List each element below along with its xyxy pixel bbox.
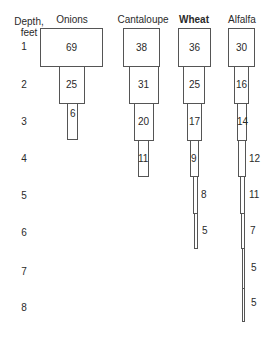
column-title-cantaloupe: Cantaloupe [116,14,170,25]
depth-label-5: 5 [14,190,34,201]
alfalfa-depth-4-box: 12 [238,140,246,177]
alfalfa-depth-3-box: 14 [237,103,247,141]
depth-label-7: 7 [14,266,34,277]
onions-depth-3-box: 6 [67,103,78,140]
wheat-depth-1-box: 36 [178,28,211,67]
wheat-depth-3-box: 17 [187,103,202,141]
onions-depth-1-box: 69 [40,28,103,67]
alfalfa-depth-1-box: 30 [228,28,255,67]
depth-label-8: 8 [14,302,34,313]
depth-label-2: 2 [14,79,34,90]
alfalfa-depth-7-box: 5 [242,248,245,289]
onions-depth-2-box: 25 [59,66,85,104]
wheat-depth-2-box: 25 [183,66,205,104]
depth-label-6: 6 [14,227,34,238]
wheat-depth-4-box: 9 [190,140,199,177]
wheat-depth-5-box: 8 [193,176,198,214]
depth-label-1: 1 [14,41,34,52]
column-title-wheat: Wheat [176,14,212,25]
column-title-onions: Onions [50,14,94,25]
wheat-depth-6-box: 5 [194,213,198,249]
cantaloupe-depth-2-box: 31 [129,66,159,104]
cantaloupe-depth-1-box: 38 [123,28,160,67]
column-title-alfalfa: Alfalfa [224,14,260,25]
cantaloupe-depth-3-box: 20 [134,103,154,141]
depth-label-4: 4 [14,153,34,164]
alfalfa-depth-8-box: 5 [242,288,245,322]
alfalfa-depth-2-box: 16 [234,66,249,104]
depth-label-3: 3 [14,116,34,127]
cantaloupe-depth-4-box: 11 [138,140,149,177]
alfalfa-depth-6-box: 7 [241,213,245,249]
alfalfa-depth-5-box: 11 [240,176,245,214]
